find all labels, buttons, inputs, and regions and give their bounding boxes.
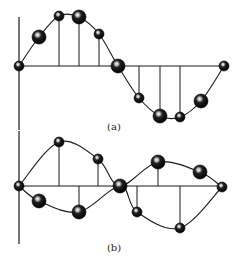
sphere-icon bbox=[14, 61, 24, 71]
sphere-icon bbox=[151, 155, 165, 169]
panel-label-a: (a) bbox=[107, 121, 121, 132]
sphere-icon bbox=[72, 205, 86, 219]
sphere-icon bbox=[93, 154, 103, 164]
sphere-icon bbox=[32, 30, 46, 44]
sphere-icon bbox=[134, 93, 144, 103]
sphere-icon bbox=[113, 179, 127, 193]
panel-label-b: (b) bbox=[107, 242, 121, 253]
sphere-icon bbox=[32, 194, 46, 208]
sphere-icon bbox=[54, 137, 64, 147]
sphere-icon bbox=[111, 59, 125, 73]
panel-b: (b) bbox=[14, 131, 227, 253]
sphere-icon bbox=[14, 181, 24, 191]
sphere-icon bbox=[219, 61, 229, 71]
sphere-icon bbox=[94, 29, 104, 39]
sphere-icon bbox=[54, 11, 64, 21]
sphere-icon bbox=[153, 109, 167, 123]
wave-diagram: (a) (b) bbox=[0, 0, 234, 262]
sphere-icon bbox=[175, 112, 185, 122]
sphere-icon bbox=[175, 223, 185, 233]
panel-a: (a) bbox=[14, 10, 229, 132]
sphere-icon bbox=[194, 94, 208, 108]
sphere-icon bbox=[132, 207, 142, 217]
sphere-icon bbox=[72, 10, 86, 24]
sphere-icon bbox=[193, 165, 207, 179]
sphere-icon bbox=[217, 182, 227, 192]
